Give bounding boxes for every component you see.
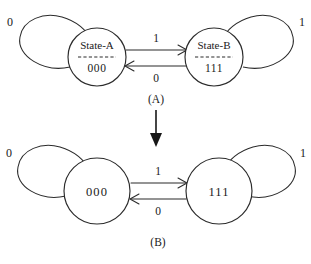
self-loop-right-b-label: 1: [300, 146, 306, 160]
state-node-a-left-code: 000: [87, 62, 106, 74]
state-node-a-right-title: State-B: [198, 39, 231, 51]
transition-forward-b-label: 1: [155, 165, 161, 177]
diagram-b-group: 0 1 1 0 000 111 (B): [6, 145, 306, 249]
diagram-a-group: 0 1 1 0 State-A 000 State-B 111 (A: [7, 15, 305, 106]
self-loop-right-a-label: 1: [299, 15, 305, 29]
diagram-canvas: 0 1 1 0 State-A 000 State-B 111 (A: [0, 0, 311, 264]
transition-back-a-label: 0: [153, 72, 159, 84]
self-loop-left-a-label: 0: [7, 15, 13, 29]
caption-b: (B): [150, 236, 166, 249]
state-node-a-right-code: 111: [205, 62, 223, 74]
state-diagram-figure: 0 1 1 0 State-A 000 State-B 111 (A: [0, 0, 311, 264]
transition-back-b-label: 0: [155, 205, 161, 217]
state-node-a-left-title: State-A: [80, 39, 114, 51]
transition-forward-a-label: 1: [153, 32, 159, 44]
self-loop-left-b-label: 0: [6, 146, 12, 160]
state-node-b-left-code: 000: [86, 185, 108, 199]
refinement-arrow: [150, 110, 162, 147]
caption-a: (A): [148, 93, 164, 106]
refinement-arrow-head: [150, 133, 162, 147]
state-node-b-right-code: 111: [208, 185, 229, 199]
